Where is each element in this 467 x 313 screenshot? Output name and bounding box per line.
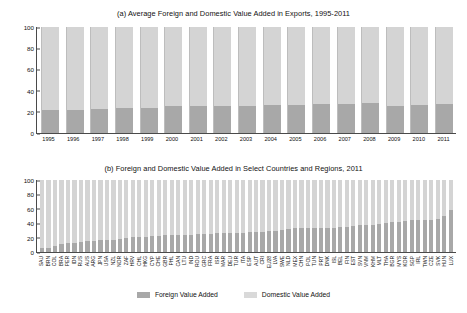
bar-che xyxy=(157,180,161,252)
bar-segment-foreign xyxy=(85,241,89,252)
bar-segment-domestic xyxy=(410,27,428,105)
bar-segment-domestic xyxy=(337,27,355,104)
y-tick-label: 100 xyxy=(24,177,37,184)
bar-2006 xyxy=(312,27,329,133)
bar-segment-foreign xyxy=(137,237,141,252)
bar-brn xyxy=(46,180,50,252)
bar-segment-foreign xyxy=(267,231,271,252)
bar-isr xyxy=(215,180,219,252)
bar-swe xyxy=(280,180,284,252)
bar-segment-domestic xyxy=(59,180,63,244)
bar-segment-foreign xyxy=(390,222,394,252)
bar-segment-domestic xyxy=(280,180,284,230)
bar-segment-foreign xyxy=(66,243,70,252)
x-tick-label: 1996 xyxy=(65,136,82,150)
bar-segment-foreign xyxy=(312,104,330,133)
bar-twn xyxy=(423,180,427,252)
bar-prt xyxy=(319,180,323,252)
bar-segment-foreign xyxy=(118,239,122,252)
x-tick-label: 1998 xyxy=(114,136,131,150)
bar-segment-domestic xyxy=(228,180,232,233)
x-tick-label: 2003 xyxy=(238,136,255,150)
bar-segment-foreign xyxy=(293,228,297,252)
x-tick-label: 2009 xyxy=(386,136,403,150)
bar-segment-domestic xyxy=(235,180,239,233)
bar-segment-domestic xyxy=(189,27,207,106)
bar-segment-domestic xyxy=(319,180,323,228)
bar-segment-domestic xyxy=(361,27,379,103)
bar-segment-domestic xyxy=(416,180,420,220)
bar-segment-foreign xyxy=(209,234,213,252)
bar-mex xyxy=(293,180,297,252)
bar-segment-domestic xyxy=(254,180,258,232)
bar-segment-domestic xyxy=(429,180,433,220)
bar-hun xyxy=(442,180,446,252)
bar-mar xyxy=(222,180,226,252)
x-tick-label: 2005 xyxy=(287,136,304,150)
bar-sau xyxy=(40,180,44,252)
bar-segment-domestic xyxy=(150,180,154,236)
bar-2005 xyxy=(287,27,304,133)
bar-segment-domestic xyxy=(332,180,336,228)
bar-segment-foreign xyxy=(384,223,388,252)
y-tick-label: 40 xyxy=(27,87,37,94)
y-tick-label: 60 xyxy=(27,66,37,73)
panel-a-title: (a) Average Foreign and Domestic Value A… xyxy=(0,9,467,18)
bar-segment-domestic xyxy=(140,27,158,108)
bar-segment-domestic xyxy=(40,180,44,248)
bar-khm xyxy=(371,180,375,252)
bar-1997 xyxy=(90,27,107,133)
bar-kor xyxy=(403,180,407,252)
bar-segment-foreign xyxy=(176,235,180,252)
bar-segment-domestic xyxy=(131,180,135,237)
bar-segment-foreign xyxy=(351,226,355,252)
bar-segment-foreign xyxy=(189,106,207,133)
bar-segment-foreign xyxy=(377,224,381,252)
y-tick-label: 80 xyxy=(27,191,37,198)
bar-2009 xyxy=(386,27,403,133)
bar-segment-domestic xyxy=(66,180,70,243)
bar-1995 xyxy=(41,27,58,133)
bar-segment-domestic xyxy=(209,180,213,234)
bar-2002 xyxy=(213,27,230,133)
bar-segment-foreign xyxy=(254,232,258,252)
bar-gbr xyxy=(163,180,167,252)
bar-isl xyxy=(332,180,336,252)
bar-mlt xyxy=(377,180,381,252)
bar-nzl xyxy=(111,180,115,252)
bar-segment-domestic xyxy=(66,27,84,110)
y-tick-label: 40 xyxy=(27,220,37,227)
bar-segment-domestic xyxy=(345,180,349,227)
bar-segment-domestic xyxy=(124,180,128,238)
bar-segment-foreign xyxy=(131,237,135,252)
bar-2001 xyxy=(189,27,206,133)
bar-segment-domestic xyxy=(79,180,83,242)
bar-segment-foreign xyxy=(442,216,446,252)
bar-segment-domestic xyxy=(189,180,193,235)
bar-segment-domestic xyxy=(410,180,414,220)
bar-segment-domestic xyxy=(85,180,89,241)
bar-segment-domestic xyxy=(397,180,401,222)
bar-segment-foreign xyxy=(53,246,57,252)
bar-svk xyxy=(436,180,440,252)
bar-segment-foreign xyxy=(416,220,420,252)
bar-segment-domestic xyxy=(442,180,446,216)
bar-segment-domestic xyxy=(384,180,388,223)
bar-segment-domestic xyxy=(386,27,404,106)
bar-cze xyxy=(429,180,433,252)
bar-tur xyxy=(235,180,239,252)
bar-segment-domestic xyxy=(358,180,362,225)
panel-b-bars xyxy=(37,180,456,252)
bar-segment-domestic xyxy=(338,180,342,227)
bar-2011 xyxy=(435,27,452,133)
bar-segment-foreign xyxy=(46,248,50,252)
bar-can xyxy=(176,180,180,252)
bar-segment-domestic xyxy=(263,27,281,105)
bar-segment-foreign xyxy=(429,220,433,252)
bar-2008 xyxy=(361,27,378,133)
bar-segment-foreign xyxy=(72,243,76,252)
bar-segment-domestic xyxy=(176,180,180,235)
bar-segment-foreign xyxy=(241,233,245,252)
panel-b-title: (b) Foreign and Domestic Value Added in … xyxy=(0,164,467,173)
bar-segment-foreign xyxy=(170,235,174,252)
